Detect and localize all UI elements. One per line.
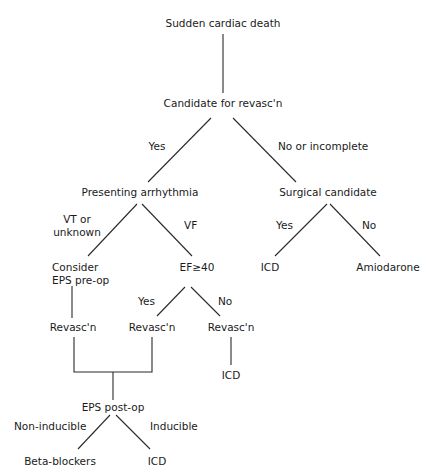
edge-label-vt-line1: VT or — [53, 213, 101, 226]
node-consider-eps-line1: Consider — [52, 261, 109, 274]
edge-label-surgical-yes: Yes — [276, 219, 293, 232]
node-beta-blockers: Beta-blockers — [24, 455, 96, 468]
edge-label-no-or-incomplete: No or incomplete — [278, 140, 368, 153]
edge-label-vt-line2: unknown — [53, 226, 101, 239]
edge-label-vt-or-unknown: VT or unknown — [53, 213, 101, 239]
node-icd-surgical: ICD — [261, 261, 280, 274]
node-revasc-mid: Revasc'n — [129, 321, 176, 334]
edge-ef-to-revasc-mid — [157, 287, 185, 316]
edge-eps-to-icd — [116, 415, 150, 449]
node-revasc-left: Revasc'n — [50, 321, 97, 334]
edge-label-yes-revasc: Yes — [149, 140, 166, 153]
node-candidate-for-revasc: Candidate for revasc'n — [164, 97, 283, 110]
edge-label-vf: VF — [184, 219, 197, 232]
node-revasc-right: Revasc'n — [208, 321, 255, 334]
edge-ef-to-revasc-right — [191, 287, 220, 316]
node-ef-40: EF≥40 — [180, 261, 215, 274]
edge-revasc-bracket — [74, 337, 152, 372]
edge-label-non-inducible: Non-inducible — [14, 420, 86, 433]
node-eps-post-op: EPS post-op — [82, 401, 145, 414]
node-surgical-candidate: Surgical candidate — [279, 186, 377, 199]
edge-label-ef-no: No — [218, 295, 232, 308]
decision-tree-diagram: Sudden cardiac death Candidate for revas… — [0, 0, 439, 472]
edge-label-ef-yes: Yes — [138, 295, 155, 308]
node-sudden-cardiac-death: Sudden cardiac death — [166, 17, 281, 30]
edge-label-inducible: Inducible — [150, 420, 198, 433]
node-icd-ef-no: ICD — [222, 369, 241, 382]
node-amiodarone: Amiodarone — [356, 261, 419, 274]
node-icd-inducible: ICD — [148, 455, 167, 468]
node-consider-eps-pre-op: Consider EPS pre-op — [52, 261, 109, 287]
edge-label-surgical-no: No — [362, 219, 376, 232]
node-consider-eps-line2: EPS pre-op — [52, 274, 109, 287]
node-presenting-arrhythmia: Presenting arrhythmia — [82, 186, 199, 199]
